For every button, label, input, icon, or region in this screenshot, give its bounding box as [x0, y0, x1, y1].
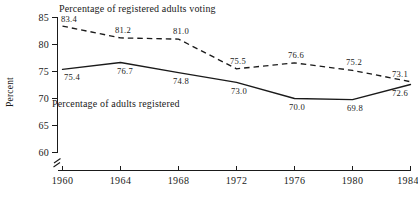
point-label-voting-1964: 81.2 [115, 25, 131, 35]
point-label-registered-1960: 75.4 [64, 72, 80, 82]
chart-figure: 85 80 75 70 65 60 Percent 1960 1964 1968… [0, 0, 418, 206]
point-label-voting-1976: 76.6 [288, 50, 304, 60]
point-label-registered-1984: 72.6 [392, 88, 408, 98]
x-tick-label-1960: 1960 [52, 175, 74, 186]
point-label-voting-1968: 81.0 [173, 26, 189, 36]
y-tick-label-70: 70 [38, 93, 49, 104]
point-label-registered-1968: 74.8 [173, 76, 189, 86]
point-label-voting-1972: 75.5 [230, 56, 246, 66]
axis-break-icon [54, 159, 61, 168]
point-label-voting-1960: 83.4 [61, 14, 77, 24]
x-tick-label-1976: 1976 [284, 175, 306, 186]
series-voting-caption: Percentage of registered adults voting [59, 3, 216, 14]
point-label-registered-1972: 73.0 [231, 86, 247, 96]
y-tick-label-75: 75 [38, 66, 49, 77]
x-tick-label-1968: 1968 [168, 175, 190, 186]
x-tick-label-1964: 1964 [110, 175, 132, 186]
point-label-registered-1976: 70.0 [289, 102, 305, 112]
y-axis-title: Percent [5, 77, 15, 107]
point-label-voting-1980: 75.2 [346, 57, 362, 67]
y-tick-label-80: 80 [38, 39, 49, 50]
y-tick-label-60: 60 [38, 147, 49, 158]
point-label-registered-1980: 69.8 [347, 103, 363, 113]
x-tick-label-1972: 1972 [226, 175, 248, 186]
x-tick-label-1980: 1980 [342, 175, 364, 186]
point-label-voting-1984: 73.1 [392, 69, 408, 79]
point-label-registered-1964: 76.7 [117, 66, 133, 76]
y-tick-label-85: 85 [38, 12, 49, 23]
y-tick-label-65: 65 [38, 120, 49, 131]
line-chart: 85 80 75 70 65 60 Percent 1960 1964 1968… [0, 0, 418, 206]
series-registered-caption: Percentage of adults registered [52, 98, 180, 109]
x-tick-label-1984: 1984 [397, 175, 418, 186]
